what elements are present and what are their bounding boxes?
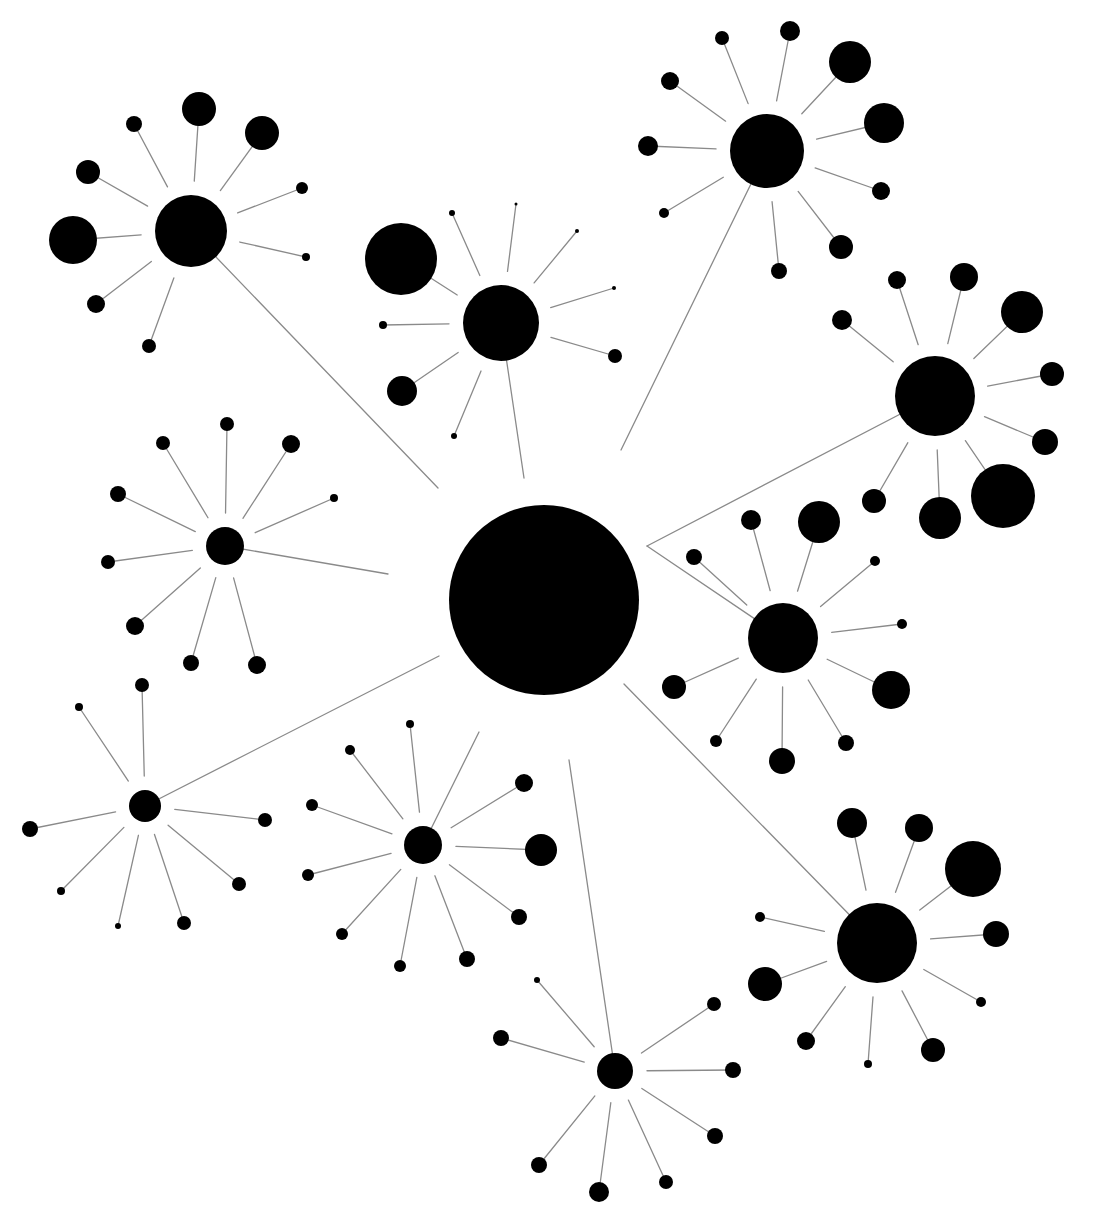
hub-node (748, 603, 818, 673)
leaf-node (659, 208, 669, 218)
leaf-node (156, 436, 170, 450)
leaf-edge (806, 987, 845, 1041)
leaf-node (608, 349, 622, 363)
leaf-node (296, 182, 308, 194)
leaf-node (838, 735, 854, 751)
leaf-edge (142, 685, 144, 776)
leaf-node (870, 556, 880, 566)
hub-node (129, 790, 161, 822)
leaf-node (182, 92, 216, 126)
root-node (449, 505, 639, 695)
leaf-node (589, 1182, 609, 1202)
leaf-edge (400, 877, 417, 966)
leaf-node (135, 678, 149, 692)
leaf-node (511, 909, 527, 925)
leaf-node (748, 967, 782, 1001)
leaf-node (659, 1175, 673, 1189)
leaf-node (832, 310, 852, 330)
leaf-node (406, 720, 414, 728)
hub-node (155, 195, 227, 267)
leaf-node (1001, 291, 1043, 333)
leaf-node (379, 321, 387, 329)
leaf-node (864, 103, 904, 143)
leaf-edge (815, 168, 881, 191)
leaf-edge (435, 876, 467, 959)
leaf-node (115, 923, 121, 929)
leaf-node (829, 41, 871, 83)
leaf-node (797, 1032, 815, 1050)
leaf-edge (30, 812, 116, 829)
leaf-node (126, 116, 142, 132)
hub-edge (569, 760, 615, 1071)
leaf-node (897, 619, 907, 629)
leaf-edge (642, 1088, 715, 1136)
leaf-edge (924, 970, 981, 1002)
leaf-edge (234, 578, 257, 665)
leaf-edge (808, 680, 846, 743)
leaf-edge (96, 261, 151, 304)
leaf-node (575, 229, 579, 233)
leaf-node (345, 745, 355, 755)
hub-node (837, 903, 917, 983)
leaf-edge (534, 231, 577, 283)
leaf-node (493, 1030, 509, 1046)
leaf-edge (118, 835, 138, 926)
hub-node (895, 356, 975, 436)
leaf-node (258, 813, 272, 827)
leaf-edge (449, 865, 519, 917)
leaf-node (612, 286, 616, 290)
leaf-node (905, 814, 933, 842)
leaf-node (451, 433, 457, 439)
leaf-node (798, 501, 840, 543)
leaf-edge (642, 1004, 714, 1053)
leaf-node (534, 977, 540, 983)
leaf-edge (342, 869, 401, 934)
leaf-edge (648, 146, 716, 149)
leaf-node (921, 1038, 945, 1062)
leaf-node (101, 555, 115, 569)
leaf-node (220, 417, 234, 431)
leaf-edge (175, 809, 265, 820)
leaf-edge (664, 177, 723, 213)
leaf-node (945, 841, 1001, 897)
leaf-edge (451, 783, 524, 828)
leaf-node (49, 216, 97, 264)
leaf-edge (134, 124, 167, 187)
leaf-node (755, 912, 765, 922)
leaf-edge (821, 561, 875, 607)
leaf-edge (410, 724, 419, 812)
leaf-node (661, 72, 679, 90)
leaf-edge (191, 578, 216, 663)
leaf-edge (118, 494, 195, 532)
leaf-edge (255, 498, 334, 533)
leaf-edge (350, 750, 403, 819)
leaf-edge (501, 1038, 584, 1062)
leaf-node (1032, 429, 1058, 455)
node-layer (22, 21, 1064, 1202)
leaf-node (183, 655, 199, 671)
leaf-edge (226, 424, 227, 513)
leaf-node (862, 489, 886, 513)
leaf-node (459, 951, 475, 967)
leaf-node (662, 675, 686, 699)
leaf-node (245, 116, 279, 150)
leaf-edge (163, 443, 208, 518)
leaf-edge (312, 805, 392, 834)
leaf-node (515, 774, 533, 792)
leaf-node (75, 703, 83, 711)
leaf-node (741, 510, 761, 530)
leaf-edge (694, 557, 747, 605)
leaf-node (919, 497, 961, 539)
leaf-node (365, 223, 437, 295)
leaf-edge (308, 853, 391, 875)
leaf-node (864, 1060, 872, 1068)
leaf-node (1040, 362, 1064, 386)
leaf-edge (760, 917, 824, 931)
leaf-node (302, 253, 310, 261)
leaf-edge (897, 280, 918, 345)
leaf-edge (135, 568, 200, 626)
leaf-node (387, 376, 417, 406)
leaf-edge (238, 188, 302, 213)
leaf-node (780, 21, 800, 41)
leaf-edge (149, 278, 174, 346)
